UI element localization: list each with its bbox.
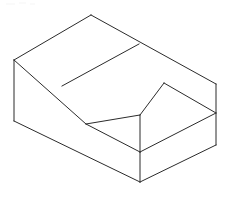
isometric-wireframe-figure <box>0 0 232 198</box>
scan-artifact <box>6 2 35 5</box>
solid-faces <box>14 15 216 182</box>
drawing-canvas <box>0 0 232 198</box>
